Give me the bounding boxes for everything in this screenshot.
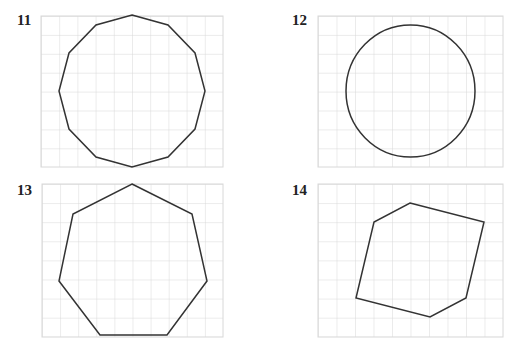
panel-11 — [41, 15, 223, 167]
grid-13 — [42, 184, 223, 337]
panel-14 — [318, 184, 503, 337]
panel-13 — [42, 184, 223, 337]
grid-11 — [41, 16, 223, 167]
figure-canvas — [0, 0, 516, 356]
panel-12 — [318, 16, 503, 167]
